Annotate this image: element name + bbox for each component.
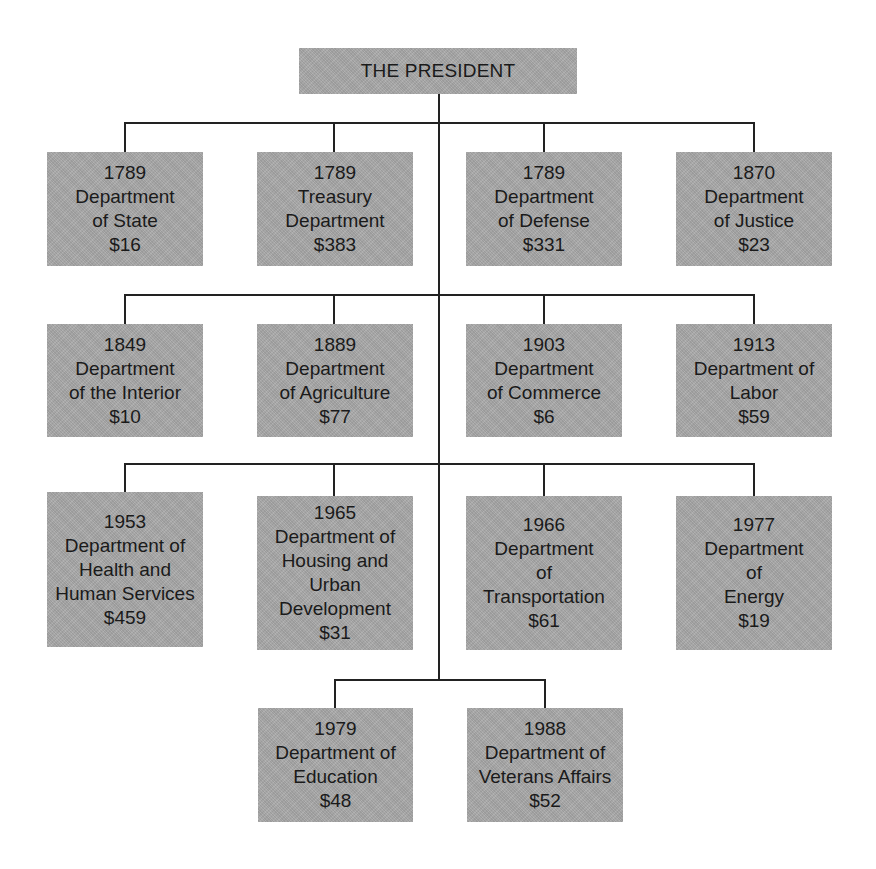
department-amount: $331 [523, 233, 565, 257]
department-box-state: 1789 Department of State $16 [47, 152, 203, 266]
row3-drop-1 [124, 463, 126, 492]
row2-drop-3 [543, 294, 545, 324]
row1-drop-1 [124, 122, 126, 152]
department-year: 1977 [733, 513, 775, 537]
department-amount: $52 [529, 789, 561, 813]
department-name-line: Housing and [282, 549, 389, 573]
department-name-line: of Justice [714, 209, 794, 233]
row3-connector [124, 463, 755, 465]
department-name-line: Veterans Affairs [479, 765, 612, 789]
department-box-veterans-affairs: 1988 Department of Veterans Affairs $52 [467, 708, 623, 822]
department-year: 1789 [104, 161, 146, 185]
department-year: 1903 [523, 333, 565, 357]
department-name-line: Department [704, 185, 803, 209]
department-amount: $23 [738, 233, 770, 257]
department-amount: $10 [109, 405, 141, 429]
department-name-line: of [536, 561, 552, 585]
department-box-agriculture: 1889 Department of Agriculture $77 [257, 324, 413, 437]
department-box-transportation: 1966 Department of Transportation $61 [466, 496, 622, 650]
department-box-energy: 1977 Department of Energy $19 [676, 496, 832, 650]
department-name-line: Health and [79, 558, 171, 582]
department-amount: $59 [738, 405, 770, 429]
department-box-housing-urban-development: 1965 Department of Housing and Urban Dev… [257, 496, 413, 650]
department-name-line: Transportation [483, 585, 605, 609]
department-name-line: of Commerce [487, 381, 601, 405]
department-year: 1988 [524, 717, 566, 741]
row1-drop-2 [333, 122, 335, 152]
department-name-line: Treasury [298, 185, 372, 209]
department-amount: $383 [314, 233, 356, 257]
department-name-line: Department [494, 357, 593, 381]
department-name-line: Department [285, 357, 384, 381]
row1-drop-3 [543, 122, 545, 152]
department-year: 1913 [733, 333, 775, 357]
department-box-health-human-services: 1953 Department of Health and Human Serv… [47, 492, 203, 647]
department-name-line: Labor [730, 381, 779, 405]
department-name-line: Department of [275, 741, 395, 765]
department-name-line: Human Services [55, 582, 194, 606]
department-name-line: Department [704, 537, 803, 561]
department-name-line: Urban [309, 573, 361, 597]
department-year: 1965 [314, 501, 356, 525]
department-amount: $61 [528, 609, 560, 633]
department-amount: $459 [104, 606, 146, 630]
row3-drop-4 [753, 463, 755, 496]
department-box-defense: 1789 Department of Defense $331 [466, 152, 622, 266]
department-name-line: Department [494, 537, 593, 561]
department-amount: $16 [109, 233, 141, 257]
department-name-line: of State [92, 209, 158, 233]
department-name-line: Department [75, 357, 174, 381]
row2-drop-2 [333, 294, 335, 324]
department-name-line: of Defense [498, 209, 590, 233]
row3-drop-2 [333, 463, 335, 496]
department-name-line: Department [494, 185, 593, 209]
department-amount: $77 [319, 405, 351, 429]
department-name-line: Department [285, 209, 384, 233]
row2-connector [124, 294, 755, 296]
president-box: THE PRESIDENT [299, 48, 577, 94]
row4-drop-1 [334, 679, 336, 708]
department-year: 1789 [523, 161, 565, 185]
department-box-labor: 1913 Department of Labor $59 [676, 324, 832, 437]
row4-drop-2 [544, 679, 546, 708]
department-name-line: of [746, 561, 762, 585]
department-box-commerce: 1903 Department of Commerce $6 [466, 324, 622, 437]
row2-drop-4 [753, 294, 755, 324]
department-amount: $31 [319, 621, 351, 645]
department-name-line: of Agriculture [280, 381, 391, 405]
department-name-line: of the Interior [69, 381, 181, 405]
row1-drop-4 [753, 122, 755, 152]
department-year: 1789 [314, 161, 356, 185]
row3-drop-3 [543, 463, 545, 496]
department-name-line: Development [279, 597, 391, 621]
department-name-line: Department of [694, 357, 814, 381]
department-name-line: Department of [485, 741, 605, 765]
department-amount: $6 [533, 405, 554, 429]
department-amount: $48 [320, 789, 352, 813]
department-name-line: Department of [65, 534, 185, 558]
department-year: 1979 [314, 717, 356, 741]
org-chart: THE PRESIDENT 1789 Department of State $… [0, 0, 876, 869]
department-year: 1849 [104, 333, 146, 357]
department-year: 1870 [733, 161, 775, 185]
department-box-justice: 1870 Department of Justice $23 [676, 152, 832, 266]
row2-drop-1 [124, 294, 126, 324]
department-box-education: 1979 Department of Education $48 [258, 708, 413, 822]
department-year: 1953 [104, 510, 146, 534]
department-year: 1966 [523, 513, 565, 537]
department-year: 1889 [314, 333, 356, 357]
department-amount: $19 [738, 609, 770, 633]
department-name-line: Department of [275, 525, 395, 549]
department-name-line: Department [75, 185, 174, 209]
president-label: THE PRESIDENT [361, 59, 516, 83]
department-box-interior: 1849 Department of the Interior $10 [47, 324, 203, 437]
trunk-line [438, 94, 440, 680]
department-box-treasury: 1789 Treasury Department $383 [257, 152, 413, 266]
department-name-line: Education [293, 765, 378, 789]
department-name-line: Energy [724, 585, 784, 609]
row4-connector [334, 679, 546, 681]
row1-connector [124, 122, 755, 124]
